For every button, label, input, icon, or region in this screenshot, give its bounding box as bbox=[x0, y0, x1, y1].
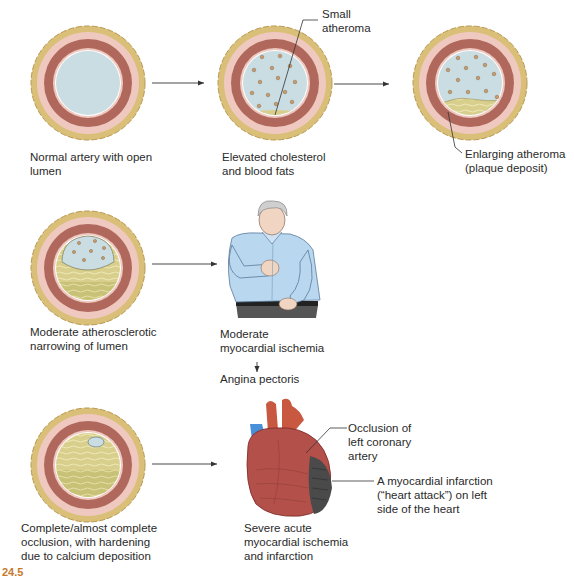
label-complete-occlusion: Complete/almost complete occlusion, with… bbox=[21, 521, 157, 563]
label-severe-ischemia-infarction: Severe acute myocardial ischemia and inf… bbox=[244, 521, 348, 563]
man-with-chest-pain-illustration bbox=[228, 201, 320, 318]
artery-complete-occlusion bbox=[31, 408, 145, 522]
artery-normal bbox=[31, 26, 145, 140]
figure-caption: 24.5 bbox=[2, 566, 23, 576]
label-angina-pectoris: Angina pectoris bbox=[220, 372, 299, 386]
label-normal-artery: Normal artery with open lumen bbox=[30, 150, 152, 178]
label-moderate-ischemia: Moderate myocardial ischemia bbox=[220, 327, 324, 355]
callout-small-atheroma: Small atheroma bbox=[322, 7, 371, 35]
label-moderate-narrowing: Moderate atherosclerotic narrowing of lu… bbox=[30, 325, 157, 353]
figure-number: 24.5 bbox=[2, 566, 23, 576]
artery-moderate-narrowing bbox=[31, 211, 145, 325]
callout-myocardial-infarction: A myocardial infarction (“heart attack”)… bbox=[377, 474, 493, 516]
callout-occlusion-left-coronary: Occlusion of left coronary artery bbox=[348, 421, 411, 463]
artery-enlarging-atheroma bbox=[413, 26, 527, 153]
artery-elevated-cholesterol bbox=[218, 20, 332, 140]
label-elevated-cholesterol: Elevated cholesterol and blood fats bbox=[222, 150, 326, 178]
callout-enlarging-atheroma: Enlarging atheroma (plaque deposit) bbox=[465, 147, 565, 175]
